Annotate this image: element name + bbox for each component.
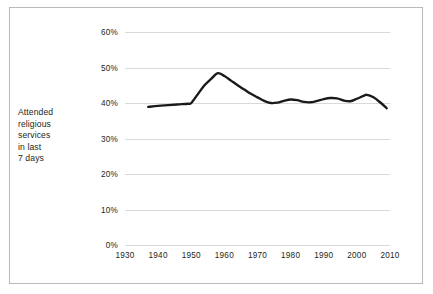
- x-axis-tick-label: 1930: [115, 251, 134, 260]
- y-axis-caption: Attended religious services in last 7 da…: [18, 107, 84, 165]
- y-axis-tick-label: 30%: [101, 134, 118, 143]
- y-axis-tick-label: 50%: [101, 63, 118, 72]
- x-axis-tick-label: 1970: [248, 251, 267, 260]
- y-axis-tick-label: 40%: [101, 99, 118, 108]
- y-axis-tick-label: 60%: [101, 28, 118, 37]
- y-axis-caption-line-1: Attended: [18, 107, 84, 119]
- y-axis-caption-line-5: 7 days: [18, 153, 84, 165]
- series-line: [125, 32, 390, 245]
- x-axis-tick-label: 2010: [380, 251, 399, 260]
- x-axis-tick-label: 1980: [281, 251, 300, 260]
- y-axis-tick-label: 10%: [101, 205, 118, 214]
- y-axis-caption-line-3: services: [18, 130, 84, 142]
- y-axis-tick-label: 20%: [101, 170, 118, 179]
- x-axis-tick-label: 2000: [347, 251, 366, 260]
- chart-figure: Attended religious services in last 7 da…: [0, 0, 433, 294]
- y-axis-caption-line-4: in last: [18, 142, 84, 154]
- x-axis-tick-label: 1940: [149, 251, 168, 260]
- x-axis-tick-label: 1990: [314, 251, 333, 260]
- x-axis-tick-label: 1960: [215, 251, 234, 260]
- y-axis-tick-label: 0%: [106, 241, 118, 250]
- gridline: [125, 245, 390, 246]
- x-axis-tick-label: 1950: [182, 251, 201, 260]
- y-axis-caption-line-2: religious: [18, 119, 84, 131]
- plot-area: 0%10%20%30%40%50%60% 1930194019501960197…: [125, 32, 390, 245]
